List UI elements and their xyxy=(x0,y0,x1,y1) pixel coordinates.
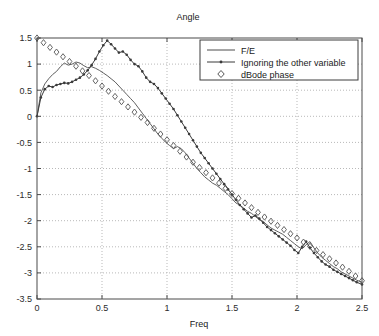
series-marker-dot xyxy=(86,69,89,72)
y-tick-label: -3.5 xyxy=(16,294,32,304)
series-marker-dot xyxy=(285,241,288,244)
series-marker-dot xyxy=(47,85,50,88)
series-marker-dot xyxy=(192,139,195,142)
series-marker-dot xyxy=(164,97,167,100)
series-marker-dot xyxy=(203,157,206,160)
series-marker-dot xyxy=(352,279,355,282)
x-tick-label: 2 xyxy=(294,303,299,313)
series-marker-dot xyxy=(281,238,284,241)
series-marker-dot xyxy=(340,273,343,276)
series-marker-dot xyxy=(356,281,359,284)
series-marker-dot xyxy=(200,152,203,155)
series-marker-dot xyxy=(176,114,179,117)
series-marker-dot xyxy=(90,64,93,67)
series-marker-dot xyxy=(246,212,249,215)
series-marker-dot xyxy=(336,271,339,274)
series-marker-dot xyxy=(122,50,125,53)
legend-label-dbode: dBode phase xyxy=(241,70,294,80)
y-tick-label: 0 xyxy=(27,112,32,122)
series-marker-dot xyxy=(258,217,261,220)
series-marker-dot xyxy=(71,81,74,84)
series-marker-dot xyxy=(196,145,199,148)
series-marker-dot xyxy=(324,263,327,266)
series-marker-dot xyxy=(332,268,335,271)
series-marker-dot xyxy=(207,162,210,165)
series-marker-dot xyxy=(55,84,58,87)
series-marker-dot xyxy=(188,133,191,136)
series-marker-dot xyxy=(254,214,257,217)
series-marker-dot xyxy=(63,82,66,85)
series-marker-dot xyxy=(94,58,97,61)
series-marker-dot xyxy=(67,82,70,85)
x-axis-label: Freq xyxy=(190,319,209,329)
series-marker-dot xyxy=(180,120,183,123)
legend-swatch-marker-ignoring xyxy=(220,61,223,64)
series-marker-dot xyxy=(118,51,121,54)
x-tick-label: 0.5 xyxy=(96,303,109,313)
series-marker-dot xyxy=(149,81,152,84)
chart-legend: F/E Ignoring the other variable dBode ph… xyxy=(200,40,358,80)
y-tick-label: -2 xyxy=(24,216,32,226)
angle-plot-svg: Angle 00.511.522.5-3.5-3-2.5-2-1.5-1-0.5… xyxy=(0,0,379,336)
series-marker-dot xyxy=(242,208,245,211)
series-marker-dot xyxy=(98,50,101,53)
series-marker-dot xyxy=(51,86,54,89)
y-tick-label: -1.5 xyxy=(16,190,32,200)
series-marker-dot xyxy=(239,204,242,207)
series-marker-dot xyxy=(313,252,316,255)
series-marker-dot xyxy=(328,265,331,268)
chart-title: Angle xyxy=(176,12,199,22)
series-marker-dot xyxy=(44,88,47,91)
series-marker-dot xyxy=(172,108,175,111)
legend-label-ignoring: Ignoring the other variable xyxy=(241,58,346,68)
series-marker-dot xyxy=(59,83,62,86)
series-marker-dot xyxy=(125,53,128,56)
x-tick-label: 2.5 xyxy=(356,303,369,313)
y-tick-label: -3 xyxy=(24,268,32,278)
series-marker-dot xyxy=(348,277,351,280)
series-marker-dot xyxy=(301,246,304,249)
series-marker-dot xyxy=(278,235,281,238)
series-marker-dot xyxy=(153,83,156,86)
series-marker-dot xyxy=(184,126,187,129)
series-marker-dot xyxy=(75,78,78,81)
series-marker-dot xyxy=(317,256,320,259)
series-marker-dot xyxy=(110,43,113,46)
series-marker-dot xyxy=(293,249,296,252)
x-tick-label: 0 xyxy=(34,303,39,313)
series-marker-dot xyxy=(161,92,164,95)
y-tick-label: -1 xyxy=(24,164,32,174)
series-marker-dot xyxy=(79,76,82,79)
series-marker-dot xyxy=(40,96,43,99)
series-marker-dot xyxy=(141,70,144,73)
series-marker-dot xyxy=(133,63,136,66)
series-marker-dot xyxy=(102,44,105,47)
series-marker-dot xyxy=(320,260,323,263)
x-tick-label: 1.5 xyxy=(226,303,239,313)
legend-label-fe: F/E xyxy=(241,46,255,56)
series-marker-dot xyxy=(250,216,253,219)
series-marker-dot xyxy=(114,47,117,50)
y-tick-label: 0.5 xyxy=(19,86,32,96)
y-tick-label: 1 xyxy=(27,59,32,69)
series-marker-dot xyxy=(266,226,269,229)
series-marker-dot xyxy=(168,102,171,105)
series-marker-dot xyxy=(344,275,347,278)
series-marker-dot xyxy=(262,221,265,224)
chart-figure: Angle 00.511.522.5-3.5-3-2.5-2-1.5-1-0.5… xyxy=(0,0,379,336)
series-marker-dot xyxy=(157,87,160,90)
series-marker-dot xyxy=(129,59,132,62)
series-marker-dot xyxy=(137,65,140,68)
x-tick-label: 1 xyxy=(164,303,169,313)
y-tick-label: -2.5 xyxy=(16,242,32,252)
series-marker-dot xyxy=(274,232,277,235)
series-marker-dot xyxy=(215,172,218,175)
y-tick-label: -0.5 xyxy=(16,138,32,148)
series-marker-dot xyxy=(270,229,273,232)
y-tick-label: 1.5 xyxy=(19,33,32,43)
series-marker-dot xyxy=(145,76,148,79)
series-marker-dot xyxy=(106,39,109,42)
series-marker-dot xyxy=(211,167,214,170)
series-marker-dot xyxy=(297,252,300,255)
series-marker-dot xyxy=(289,244,292,247)
